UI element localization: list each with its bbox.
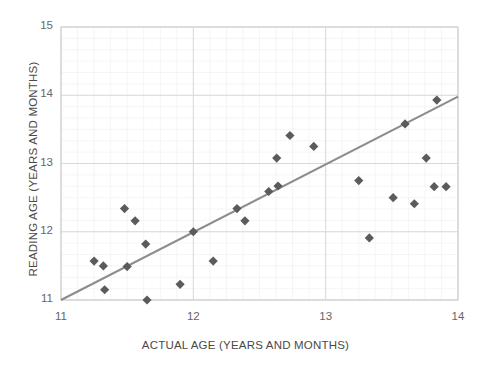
- data-point: [285, 131, 294, 140]
- data-point: [141, 239, 150, 248]
- data-point: [99, 261, 108, 270]
- data-point: [430, 182, 439, 191]
- y-tick-13: 13: [23, 156, 53, 168]
- y-tick-14: 14: [23, 87, 53, 99]
- x-tick-11: 11: [46, 310, 76, 322]
- data-point: [131, 216, 140, 225]
- data-point: [410, 199, 419, 208]
- y-tick-15: 15: [23, 19, 53, 31]
- x-tick-12: 12: [178, 310, 208, 322]
- x-axis-title: ACTUAL AGE (YEARS AND MONTHS): [0, 339, 491, 351]
- data-point: [354, 176, 363, 185]
- y-tick-11: 11: [23, 292, 53, 304]
- x-tick-14: 14: [443, 310, 473, 322]
- data-point: [432, 95, 441, 104]
- data-point: [120, 204, 129, 213]
- data-point: [389, 193, 398, 202]
- data-point: [273, 181, 282, 190]
- x-tick-13: 13: [311, 310, 341, 322]
- data-point: [441, 182, 450, 191]
- data-point: [272, 153, 281, 162]
- y-axis-title: READING AGE (YEARS AND MONTHS): [27, 44, 39, 294]
- data-point: [309, 142, 318, 151]
- data-point: [89, 256, 98, 265]
- data-point: [100, 285, 109, 294]
- data-point: [422, 153, 431, 162]
- data-point: [240, 216, 249, 225]
- scatter-chart: READING AGE (YEARS AND MONTHS) ACTUAL AG…: [0, 0, 491, 370]
- y-tick-12: 12: [23, 224, 53, 236]
- data-point: [365, 233, 374, 242]
